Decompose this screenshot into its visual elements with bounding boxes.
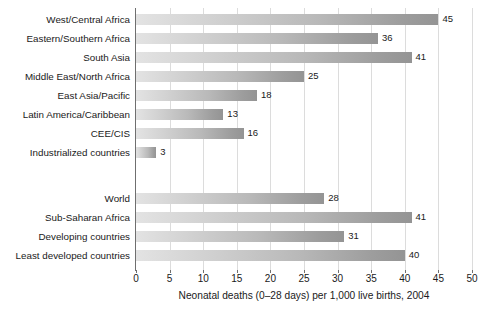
bar-value-label: 18 bbox=[261, 87, 272, 103]
bar-row[interactable]: 45 bbox=[136, 10, 472, 29]
x-tick-label: 20 bbox=[265, 273, 276, 284]
x-tick-label: 40 bbox=[399, 273, 410, 284]
category-label: Developing countries bbox=[5, 227, 135, 246]
bar-row[interactable]: 31 bbox=[136, 227, 472, 246]
x-tick-label: 10 bbox=[198, 273, 209, 284]
bar-row[interactable]: 41 bbox=[136, 48, 472, 67]
bar[interactable] bbox=[136, 128, 244, 139]
x-tick-label: 35 bbox=[366, 273, 377, 284]
bar-value-label: 28 bbox=[328, 190, 339, 206]
category-label: World bbox=[5, 189, 135, 208]
x-tick-label: 50 bbox=[466, 273, 477, 284]
category-label: South Asia bbox=[5, 48, 135, 67]
bar-value-label: 45 bbox=[442, 11, 453, 27]
bar-value-label: 40 bbox=[409, 247, 420, 263]
bar-value-label: 13 bbox=[227, 106, 238, 122]
bar-row[interactable]: 28 bbox=[136, 189, 472, 208]
x-axis-title: Neonatal deaths (0–28 days) per 1,000 li… bbox=[136, 290, 472, 301]
bar-value-label: 36 bbox=[382, 30, 393, 46]
bar-row[interactable]: 36 bbox=[136, 29, 472, 48]
category-label: Middle East/North Africa bbox=[5, 67, 135, 86]
bar-value-label: 16 bbox=[248, 125, 259, 141]
bar[interactable] bbox=[136, 212, 412, 223]
bar[interactable] bbox=[136, 109, 223, 120]
bar-value-label: 41 bbox=[416, 209, 427, 225]
bar-row[interactable]: 25 bbox=[136, 67, 472, 86]
x-tick-label: 0 bbox=[133, 273, 139, 284]
plot-area: 45364125181316328413140 bbox=[136, 8, 472, 270]
bar[interactable] bbox=[136, 33, 378, 44]
bar[interactable] bbox=[136, 250, 405, 261]
bar-value-label: 25 bbox=[308, 68, 319, 84]
x-tick-label: 15 bbox=[231, 273, 242, 284]
bar-value-label: 41 bbox=[416, 49, 427, 65]
x-tick-label: 25 bbox=[298, 273, 309, 284]
bar[interactable] bbox=[136, 231, 344, 242]
category-label: West/Central Africa bbox=[5, 10, 135, 29]
bar[interactable] bbox=[136, 90, 257, 101]
bar[interactable] bbox=[136, 14, 438, 25]
x-tick-label: 45 bbox=[433, 273, 444, 284]
bar-row[interactable]: 3 bbox=[136, 143, 472, 162]
bar-row[interactable]: 18 bbox=[136, 86, 472, 105]
category-label: Least developed countries bbox=[5, 246, 135, 265]
x-tick-label: 5 bbox=[167, 273, 173, 284]
bar-value-label: 31 bbox=[348, 228, 359, 244]
bar-row[interactable]: 41 bbox=[136, 208, 472, 227]
bar[interactable] bbox=[136, 193, 324, 204]
category-label: Sub-Saharan Africa bbox=[5, 208, 135, 227]
neonatal-deaths-bar-chart: West/Central AfricaEastern/Southern Afri… bbox=[0, 0, 486, 313]
bar[interactable] bbox=[136, 147, 156, 158]
category-axis-labels: West/Central AfricaEastern/Southern Afri… bbox=[0, 8, 135, 271]
bar[interactable] bbox=[136, 71, 304, 82]
gridline bbox=[472, 8, 473, 270]
category-label: Eastern/Southern Africa bbox=[5, 29, 135, 48]
category-label: CEE/CIS bbox=[5, 124, 135, 143]
bar[interactable] bbox=[136, 52, 412, 63]
bar-value-label: 3 bbox=[160, 144, 165, 160]
bar-row[interactable]: 16 bbox=[136, 124, 472, 143]
category-label: East Asia/Pacific bbox=[5, 86, 135, 105]
category-label: Industrialized countries bbox=[5, 143, 135, 162]
category-label: Latin America/Caribbean bbox=[5, 105, 135, 124]
bar-row[interactable]: 13 bbox=[136, 105, 472, 124]
bar-row[interactable]: 40 bbox=[136, 246, 472, 265]
x-tick-label: 30 bbox=[332, 273, 343, 284]
